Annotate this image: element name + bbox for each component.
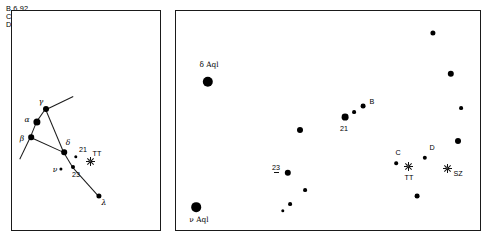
star-marker bbox=[352, 110, 356, 114]
star-marker-β bbox=[28, 134, 34, 140]
star-label-δ: δ bbox=[66, 139, 71, 146]
star-label-ν: ν bbox=[53, 166, 58, 173]
star-label-δ-Aql: δ Aql bbox=[199, 61, 218, 68]
star-marker-21 bbox=[342, 114, 349, 121]
star-label-23: 23 bbox=[272, 164, 280, 171]
star-label-λ: λ bbox=[102, 199, 107, 206]
star-marker bbox=[297, 127, 303, 133]
star-marker-γ bbox=[43, 106, 49, 112]
label-pointer-tick bbox=[274, 172, 279, 173]
star-label-D: D bbox=[429, 144, 434, 151]
star-label-23: 23 bbox=[72, 171, 80, 178]
variable-star-marker-TT bbox=[403, 161, 414, 172]
variable-star-marker-SZ bbox=[442, 163, 453, 174]
star-marker bbox=[459, 106, 463, 110]
star-label-β: β bbox=[20, 135, 24, 142]
star-marker-C bbox=[394, 161, 398, 165]
variable-star-label-SZ: SZ bbox=[453, 170, 462, 177]
star-label-21: 21 bbox=[340, 125, 348, 132]
star-label-ν-Aql: ν Aql bbox=[189, 216, 208, 223]
star-label-B: B bbox=[370, 98, 375, 105]
star-marker-ν-Aql bbox=[191, 202, 201, 212]
star-chart-figure: B 6,92 C 7,80 D 8,4 γαβδ2123νλTTδ Aqlν A… bbox=[0, 0, 490, 240]
star-marker-23 bbox=[71, 165, 75, 169]
star-marker bbox=[288, 202, 292, 206]
variable-star-label-TT: TT bbox=[405, 174, 414, 181]
star-marker-δ bbox=[61, 149, 67, 155]
star-marker bbox=[415, 194, 420, 199]
panel-detail-field bbox=[175, 10, 481, 231]
star-label-21: 21 bbox=[79, 146, 87, 153]
star-marker bbox=[455, 138, 461, 144]
star-label-α: α bbox=[24, 116, 29, 123]
star-marker bbox=[303, 188, 307, 192]
star-marker-B bbox=[361, 104, 366, 109]
variable-star-label-TT: TT bbox=[93, 150, 102, 157]
star-label-C: C bbox=[395, 149, 400, 156]
star-label-γ: γ bbox=[39, 98, 44, 105]
